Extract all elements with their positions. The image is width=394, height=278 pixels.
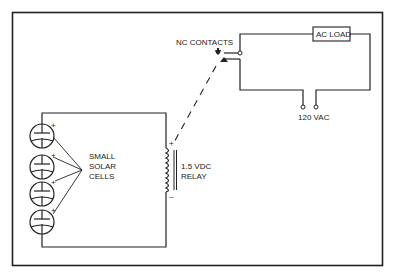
solar-cell-array: + + + + [30,121,56,234]
cells-leader-lines [53,137,82,214]
cell-plus-label: + [51,151,56,160]
relay-coil [166,148,177,192]
cells-label-line3: CELLS [89,172,114,181]
nc-contacts [215,48,242,62]
circuit-diagram: + + + + SMALL SOLAR CELLS + – 1.5 VDC RE… [0,0,394,278]
nc-contacts-label: NC CONTACTS [176,38,233,47]
ac-load-label: AC LOAD [316,30,351,39]
mechanical-link [172,66,216,146]
cell-plus-label: + [51,178,56,187]
diagram-frame [13,13,383,266]
cells-label-line2: SOLAR [89,162,116,171]
relay-label-line1: 1.5 VDC [181,162,211,171]
ac-supply-label: 120 VAC [298,113,330,122]
relay-plus-label: + [169,139,174,148]
relay-minus-label: – [169,192,174,201]
dc-wire-bottom [42,192,166,247]
relay-label-line2: RELAY [181,172,207,181]
cell-plus-label: + [51,121,56,130]
ac-circuit [240,34,370,109]
dc-wire-top [42,113,166,148]
cells-label-line1: SMALL [89,152,116,161]
arrow-down-icon [215,48,221,55]
